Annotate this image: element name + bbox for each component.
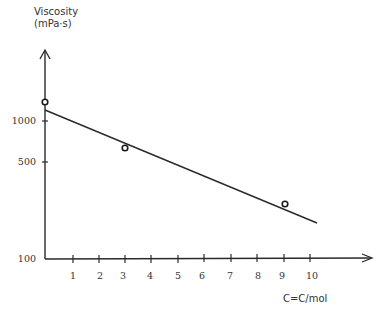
y-tick-label: 100 <box>18 253 36 264</box>
data-points <box>42 99 288 207</box>
chart-plot: 1000 500 100 1 2 3 4 5 6 7 8 9 10 <box>0 0 386 317</box>
data-point <box>42 99 48 105</box>
x-tick-label: 10 <box>306 270 318 281</box>
x-tick-labels: 1 2 3 4 5 6 7 8 9 10 <box>70 270 318 281</box>
x-tick-label: 2 <box>97 270 103 281</box>
y-tick-label: 500 <box>18 156 36 167</box>
fitted-line <box>45 110 317 223</box>
x-tick-label: 9 <box>279 270 285 281</box>
y-tick-label: 1000 <box>12 115 36 126</box>
x-tick-label: 7 <box>227 270 233 281</box>
data-point <box>122 145 128 151</box>
x-axis-label: C=C/mol <box>283 293 327 304</box>
x-tick-label: 3 <box>120 270 126 281</box>
x-tick-label: 4 <box>147 270 153 281</box>
x-tick-label: 1 <box>70 270 76 281</box>
x-tick-label: 5 <box>175 270 181 281</box>
y-tick-labels: 1000 500 100 <box>12 115 36 264</box>
x-axis <box>45 258 371 259</box>
x-tick-label: 8 <box>255 270 261 281</box>
x-tick-label: 6 <box>199 270 205 281</box>
data-point <box>282 201 288 207</box>
